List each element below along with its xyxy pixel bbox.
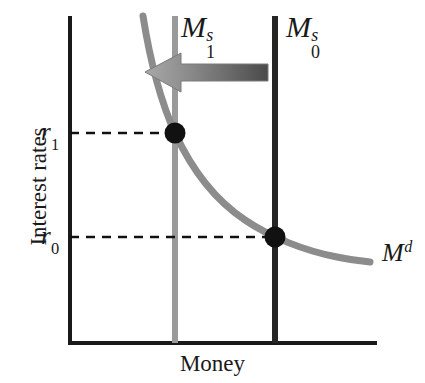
r0-subscript: 0 bbox=[51, 239, 59, 258]
money-market-diagram: Ms1 Ms0 Md r1 r0 Money Interest rates bbox=[0, 0, 425, 383]
md-base: M bbox=[382, 238, 404, 267]
equilibrium-point-e1 bbox=[165, 123, 186, 144]
demand-curve-md-label: Md bbox=[382, 238, 412, 266]
y-axis-title: Interest rates bbox=[27, 87, 50, 287]
md-superscript: d bbox=[404, 238, 412, 255]
r1-subscript: 1 bbox=[51, 135, 59, 154]
x-axis-title: Money bbox=[0, 352, 425, 375]
supply-curve-m0s-label: Ms0 bbox=[286, 12, 333, 42]
supply-curve-m1s-label: Ms1 bbox=[181, 12, 228, 42]
ms0-base: M bbox=[286, 10, 311, 43]
equilibrium-point-e0 bbox=[265, 227, 286, 248]
ms1-base: M bbox=[181, 10, 206, 43]
